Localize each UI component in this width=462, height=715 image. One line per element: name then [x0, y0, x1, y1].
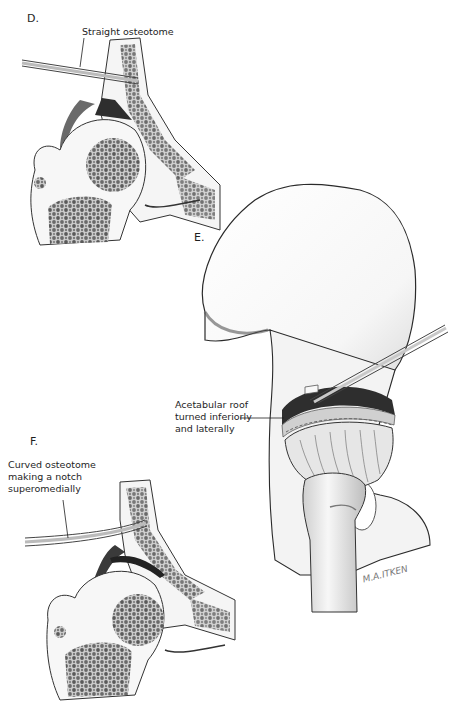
callout-straight-osteotome: Straight osteotome — [82, 26, 174, 38]
panel-letter-d: D. — [27, 12, 39, 25]
panel-f-illustration — [25, 480, 235, 700]
illustration-canvas — [0, 0, 462, 715]
panel-letter-f: F. — [30, 435, 38, 448]
leader-line-curved-osteotome — [63, 500, 68, 538]
callout-line: making a notch — [8, 471, 96, 483]
callout-line: turned inferiorly — [175, 411, 252, 423]
leader-line-straight-osteotome — [80, 38, 84, 67]
callout-line: Curved osteotome — [8, 459, 96, 471]
callout-acetabular-roof: Acetabular roof turned inferiorly and la… — [175, 399, 252, 435]
callout-line: superomedially — [8, 483, 96, 495]
panel-d-illustration — [22, 38, 220, 245]
callout-curved-osteotome: Curved osteotome making a notch superome… — [8, 459, 96, 495]
panel-letter-e: E. — [194, 231, 204, 244]
callout-line: Acetabular roof — [175, 399, 252, 411]
callout-line: and laterally — [175, 423, 252, 435]
